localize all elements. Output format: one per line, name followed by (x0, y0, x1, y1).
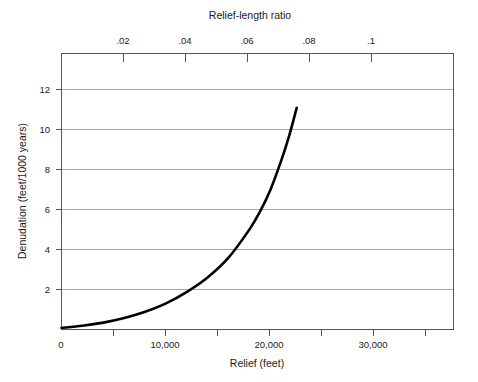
x-tick-label: 30,000 (358, 339, 387, 350)
x-axis-title: Relief (feet) (230, 357, 284, 369)
y-axis-title: Denudation (feet/1000 years) (16, 123, 28, 259)
y-tick-label: 4 (45, 244, 50, 255)
y-tick-label: 8 (45, 164, 50, 175)
top-tick-label: .1 (367, 35, 375, 46)
top-tick-label: .08 (302, 35, 315, 46)
top-tick-label: .04 (178, 35, 191, 46)
y-tick-label: 6 (45, 204, 50, 215)
y-tick-label: 12 (39, 84, 50, 95)
x-tick-label: 10,000 (150, 339, 179, 350)
y-tick-label: 10 (39, 124, 50, 135)
y-tick-label: 2 (45, 284, 50, 295)
top-axis-title: Relief-length ratio (209, 9, 291, 21)
x-tick-label: 20,000 (254, 339, 283, 350)
x-tick-label: 0 (58, 339, 63, 350)
chart-canvas: Relief-length ratio .02 .04 .06 .08 .1 (0, 0, 478, 382)
top-tick-label: .06 (240, 35, 253, 46)
top-tick-label: .02 (116, 35, 129, 46)
chart-background (0, 0, 478, 382)
denudation-relief-chart: Relief-length ratio .02 .04 .06 .08 .1 (0, 0, 478, 382)
